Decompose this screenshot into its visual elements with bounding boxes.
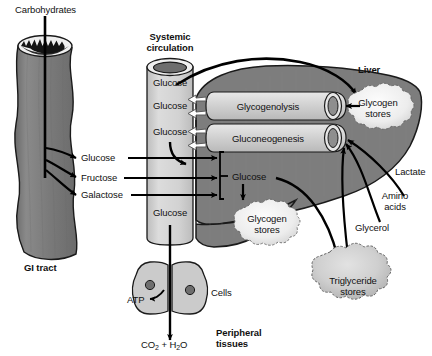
label-gi-tract: GI tract <box>24 262 56 273</box>
label-triglyceride-stores-line2: stores <box>322 286 384 297</box>
h2o-suffix: O <box>180 339 187 350</box>
label-vessel-glucose-3: Glucose <box>147 126 193 137</box>
label-triglyceride-stores-line1: Triglyceride <box>322 275 384 286</box>
label-liver: Liver <box>358 64 380 75</box>
label-fructose-absorbed: Fructose <box>81 172 117 183</box>
label-glycogenolysis: Glycogenolysis <box>212 101 324 112</box>
vessel-lumen <box>154 62 187 73</box>
label-glucose-absorbed: Glucose <box>81 152 115 163</box>
label-peripheral-tissues-line2: tissues <box>216 338 248 349</box>
label-amino-acids-line1: Amino <box>372 190 418 201</box>
label-amino-acids-line2: acids <box>372 201 418 212</box>
label-glycogen-stores-hepatic-line2: stores <box>240 224 294 235</box>
nucleus-left <box>145 280 154 289</box>
gi-tract-organ <box>15 36 77 260</box>
label-gluconeogenesis: Gluconeogenesis <box>212 133 324 144</box>
label-lactate: Lactate <box>395 166 425 177</box>
diagram-canvas: Carbohydrates GI tract Systemic circulat… <box>0 0 432 356</box>
label-carbohydrates: Carbohydrates <box>15 4 76 15</box>
co2-prefix: CO <box>141 339 155 350</box>
label-galactose-absorbed: Galactose <box>81 189 123 200</box>
label-vessel-glucose-1: Glucose <box>147 77 193 88</box>
label-systemic-circulation-line1: Systemic <box>126 31 214 42</box>
label-atp: ATP <box>127 294 144 305</box>
label-glycerol: Glycerol <box>355 222 389 233</box>
label-glycogen-stores-liver-line1: Glycogen <box>352 97 404 108</box>
label-vessel-glucose-4: Glucose <box>147 207 193 218</box>
co2-h2o-connector: + H <box>159 339 176 350</box>
label-glucose-liver: Glucose <box>232 171 266 182</box>
label-systemic-circulation-line2: circulation <box>126 42 214 53</box>
diagram-graphics <box>0 0 432 356</box>
label-vessel-glucose-2: Glucose <box>147 100 193 111</box>
label-glycogen-stores-liver-line2: stores <box>352 108 404 119</box>
nucleus-right <box>185 285 194 294</box>
label-cells: Cells <box>211 287 232 298</box>
label-peripheral-tissues-line1: Peripheral <box>216 327 261 338</box>
label-co2-h2o: CO2 + H2O <box>141 339 187 353</box>
label-glycogen-stores-hepatic-line1: Glycogen <box>240 213 294 224</box>
